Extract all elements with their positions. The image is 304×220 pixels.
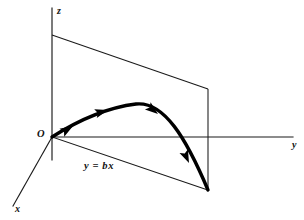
origin-label: O bbox=[37, 129, 45, 140]
x-axis-label: x bbox=[15, 204, 20, 214]
z-axis-label: z bbox=[57, 6, 61, 16]
x-axis-line bbox=[13, 137, 52, 206]
y-axis-label: y bbox=[292, 140, 296, 150]
diagram-canvas bbox=[0, 0, 304, 220]
figure-container: z y x O y = bx bbox=[0, 0, 304, 220]
plane-equation-label: y = bx bbox=[84, 161, 114, 172]
plane-face bbox=[52, 35, 208, 190]
